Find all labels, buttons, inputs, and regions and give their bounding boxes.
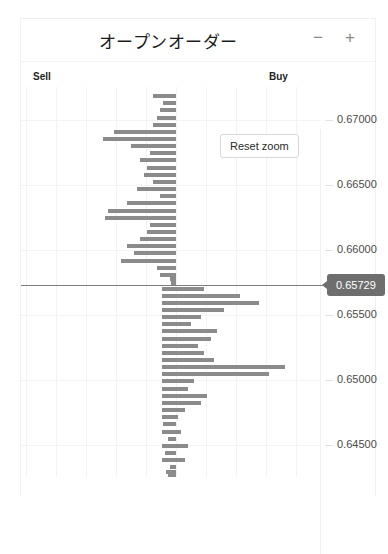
- depth-bar: [162, 458, 185, 462]
- depth-bar: [153, 180, 176, 184]
- chart-gridline-horizontal: [21, 185, 321, 186]
- depth-bar: [121, 259, 176, 263]
- depth-bar: [162, 322, 191, 326]
- depth-bar: [144, 173, 176, 177]
- depth-bar: [127, 201, 176, 205]
- depth-bar: [160, 194, 176, 198]
- depth-bar: [168, 474, 176, 477]
- depth-bar: [157, 116, 176, 120]
- depth-bar: [140, 158, 176, 162]
- chart-gridline-horizontal: [21, 120, 321, 121]
- depth-bar: [162, 401, 201, 405]
- depth-bar: [157, 266, 176, 270]
- depth-bar: [105, 216, 176, 220]
- depth-bar: [162, 394, 207, 398]
- open-orders-card: オープンオーダー − + Sell Buy 0.65729 Reset zoom…: [20, 18, 376, 496]
- depth-bar: [103, 137, 176, 141]
- depth-bar: [162, 430, 181, 434]
- depth-bar: [162, 351, 204, 355]
- chart-gridline-vertical: [86, 87, 87, 477]
- y-axis-line: [320, 129, 321, 554]
- buy-side-label: Buy: [269, 71, 288, 82]
- depth-bar: [153, 123, 176, 127]
- depth-bar: [162, 344, 198, 348]
- zoom-in-icon[interactable]: +: [339, 27, 361, 49]
- depth-bar: [162, 358, 214, 362]
- chart-gridline-vertical: [26, 87, 27, 477]
- depth-bar: [170, 465, 176, 469]
- y-axis-label: 0.66000: [337, 243, 377, 255]
- y-axis-label: 0.65000: [337, 373, 377, 385]
- depth-bar: [150, 151, 176, 155]
- y-axis-tick: [325, 380, 333, 381]
- sell-side-label: Sell: [33, 71, 51, 82]
- y-axis-label: 0.66500: [337, 178, 377, 190]
- depth-bar: [163, 422, 176, 426]
- depth-bar: [150, 223, 176, 227]
- depth-bar: [160, 273, 176, 277]
- card-header: オープンオーダー − +: [21, 19, 375, 62]
- depth-chart-panel: Sell Buy 0.65729 Reset zoom 0.670000.665…: [21, 61, 375, 496]
- depth-bar: [153, 94, 176, 98]
- depth-bar: [162, 415, 178, 419]
- chart-gridline-vertical: [206, 87, 207, 477]
- depth-bar: [127, 244, 176, 248]
- status-bar: [0, 0, 388, 14]
- depth-bar: [162, 315, 201, 319]
- depth-bar: [162, 387, 188, 391]
- y-axis-tick: [325, 445, 333, 446]
- depth-bar: [162, 379, 194, 383]
- depth-bar: [162, 308, 224, 312]
- depth-bar: [162, 372, 269, 376]
- depth-bar: [165, 451, 176, 455]
- reset-zoom-button[interactable]: Reset zoom: [220, 134, 299, 158]
- depth-bar: [160, 108, 176, 112]
- depth-bar: [114, 130, 176, 134]
- depth-bar: [108, 209, 176, 213]
- zoom-out-icon[interactable]: −: [307, 27, 329, 49]
- depth-bar: [162, 337, 211, 341]
- depth-bar: [134, 251, 176, 255]
- depth-bar: [162, 408, 185, 412]
- chart-gridline-vertical: [56, 87, 57, 477]
- depth-bar: [162, 329, 217, 333]
- depth-bar: [147, 166, 176, 170]
- depth-bar: [162, 365, 285, 369]
- y-axis-label: 0.65500: [337, 308, 377, 320]
- current-price-badge: 0.65729: [327, 274, 385, 296]
- y-axis-label: 0.64500: [337, 438, 377, 450]
- depth-bar: [140, 237, 176, 241]
- depth-bar: [162, 294, 240, 298]
- depth-bar: [162, 287, 204, 291]
- depth-bar: [147, 230, 176, 234]
- depth-bar: [162, 444, 188, 448]
- chart-gridline-horizontal: [21, 250, 321, 251]
- depth-bar: [131, 144, 176, 148]
- depth-bar: [168, 437, 176, 441]
- x-axis-labels: [21, 511, 321, 525]
- y-axis-tick: [325, 315, 333, 316]
- depth-bar: [137, 187, 176, 191]
- chart-gridline-vertical: [116, 87, 117, 477]
- depth-bar: [162, 301, 259, 305]
- y-axis-tick: [325, 185, 333, 186]
- depth-bar: [163, 101, 176, 105]
- y-axis-tick: [325, 250, 333, 251]
- depth-bar: [166, 470, 176, 474]
- y-axis-tick: [325, 120, 333, 121]
- y-axis-label: 0.67000: [337, 113, 377, 125]
